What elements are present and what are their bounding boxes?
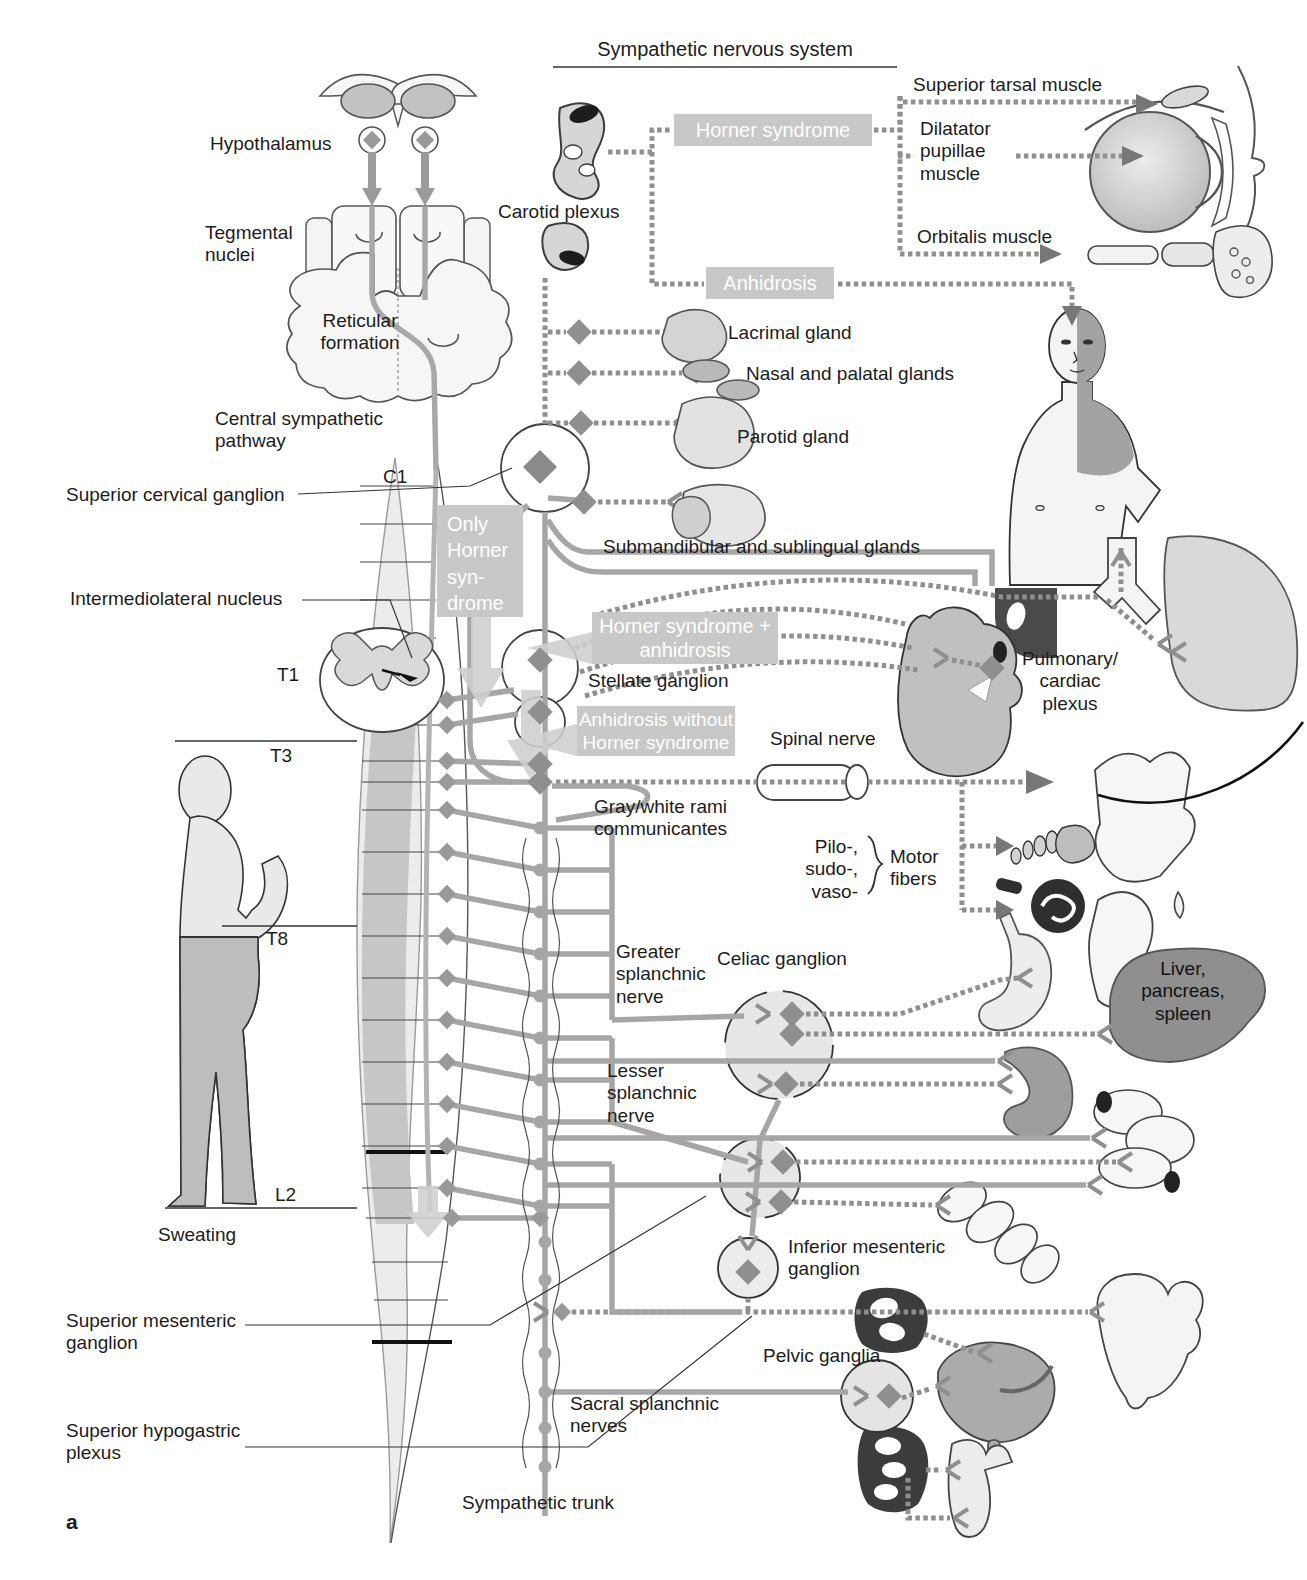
label-stellate-ganglion: Stellate ganglion bbox=[588, 670, 729, 692]
label-lesser-splanchnic: Lesser splanchnic nerve bbox=[607, 1060, 697, 1127]
label-sympathetic-trunk: Sympathetic trunk bbox=[462, 1492, 614, 1514]
pathways bbox=[406, 94, 1186, 1527]
level-t3: T3 bbox=[270, 745, 292, 767]
label-superior-mesenteric-ganglion: Superior mesenteric ganglion bbox=[66, 1310, 236, 1355]
label-spinal-nerve: Spinal nerve bbox=[770, 728, 876, 750]
figure-page: Sympathetic nervous system Hypothalamus … bbox=[0, 0, 1307, 1580]
superior-tarsal-muscle-shape bbox=[1159, 82, 1210, 113]
stomach-shape bbox=[979, 913, 1051, 1030]
box-only-horner: Only Horner syn- drome bbox=[437, 505, 523, 617]
box-anhidrosis-without-horner: Anhidrosis without Horner syndrome bbox=[577, 706, 735, 756]
label-superior-cervical-ganglion: Superior cervical ganglion bbox=[66, 484, 285, 506]
label-pulmonary-cardiac-plexus: Pulmonary/ cardiac plexus bbox=[1012, 648, 1128, 715]
label-sacral-splanchnic: Sacral splanchnic nerves bbox=[570, 1393, 719, 1438]
rectum-shape bbox=[1097, 1274, 1202, 1409]
spinal-column bbox=[357, 458, 468, 1543]
level-c1: C1 bbox=[383, 466, 407, 488]
sweating-body-figure bbox=[169, 756, 288, 1206]
label-tegmental-nuclei: Tegmental nuclei bbox=[205, 222, 293, 267]
heart-shape bbox=[898, 607, 1022, 776]
label-dilatator-pupillae-muscle: Dilatator pupillae muscle bbox=[920, 118, 991, 185]
lung-shape bbox=[1164, 536, 1297, 711]
label-central-sympathetic-pathway: Central sympathetic pathway bbox=[215, 408, 383, 453]
label-motor-fibers: Motor fibers bbox=[890, 846, 939, 891]
lacrimal-gland-shape bbox=[662, 310, 726, 363]
label-greater-splanchnic: Greater splanchnic nerve bbox=[616, 941, 706, 1008]
anhidrosis-figure bbox=[1010, 309, 1160, 585]
nasal-gland-shape bbox=[683, 360, 729, 382]
label-parotid-gland: Parotid gland bbox=[737, 426, 849, 448]
label-gray-white-rami: Gray/white rami communicantes bbox=[594, 796, 727, 841]
label-sweating: Sweating bbox=[158, 1224, 236, 1246]
sacrum-upper-shape bbox=[855, 1288, 928, 1353]
label-reticular-formation: Reticular formation bbox=[300, 310, 420, 355]
carotid-plexus-artery bbox=[542, 102, 604, 270]
label-superior-tarsal-muscle: Superior tarsal muscle bbox=[913, 74, 1102, 96]
label-lacrimal-gland: Lacrimal gland bbox=[728, 322, 852, 344]
box-horner-plus-anhidrosis: Horner syndrome + anhidrosis bbox=[592, 612, 778, 664]
label-pelvic-ganglia: Pelvic ganglia bbox=[763, 1345, 880, 1367]
label-nasal-palatal-glands: Nasal and palatal glands bbox=[746, 363, 954, 385]
label-inferior-mesenteric-ganglion: Inferior mesenteric ganglion bbox=[788, 1236, 945, 1281]
label-orbitalis-muscle: Orbitalis muscle bbox=[917, 226, 1052, 248]
label-liver-pancreas-spleen: Liver, pancreas, spleen bbox=[1128, 958, 1238, 1025]
bladder-shape bbox=[938, 1342, 1055, 1442]
level-l2: L2 bbox=[275, 1184, 296, 1206]
label-intermediolateral-nucleus: Intermediolateral nucleus bbox=[70, 588, 282, 610]
level-t1: T1 bbox=[277, 664, 299, 686]
label-celiac-ganglion: Celiac ganglion bbox=[717, 948, 847, 970]
label-hypothalamus: Hypothalamus bbox=[210, 133, 331, 155]
kidney-shape bbox=[1004, 1048, 1072, 1139]
label-carotid-plexus: Carotid plexus bbox=[498, 201, 619, 223]
eye-panel bbox=[1085, 66, 1272, 297]
label-pilo-sudo-vaso: Pilo-, sudo-, vaso- bbox=[796, 836, 858, 903]
box-horner-syndrome: Horner syndrome bbox=[674, 114, 872, 146]
label-superior-hypogastric-plexus: Superior hypogastric plexus bbox=[66, 1420, 240, 1465]
label-submandibular-sublingual: Submandibular and sublingual glands bbox=[603, 536, 920, 558]
sublingual-gland-shape bbox=[672, 496, 710, 538]
figure-title: Sympathetic nervous system bbox=[553, 38, 897, 61]
box-anhidrosis: Anhidrosis bbox=[706, 267, 834, 299]
panel-letter: a bbox=[66, 1510, 78, 1535]
orbitalis-muscle-shape bbox=[1088, 246, 1158, 264]
colon-shape bbox=[931, 1174, 1066, 1290]
level-t8: T8 bbox=[266, 928, 288, 950]
